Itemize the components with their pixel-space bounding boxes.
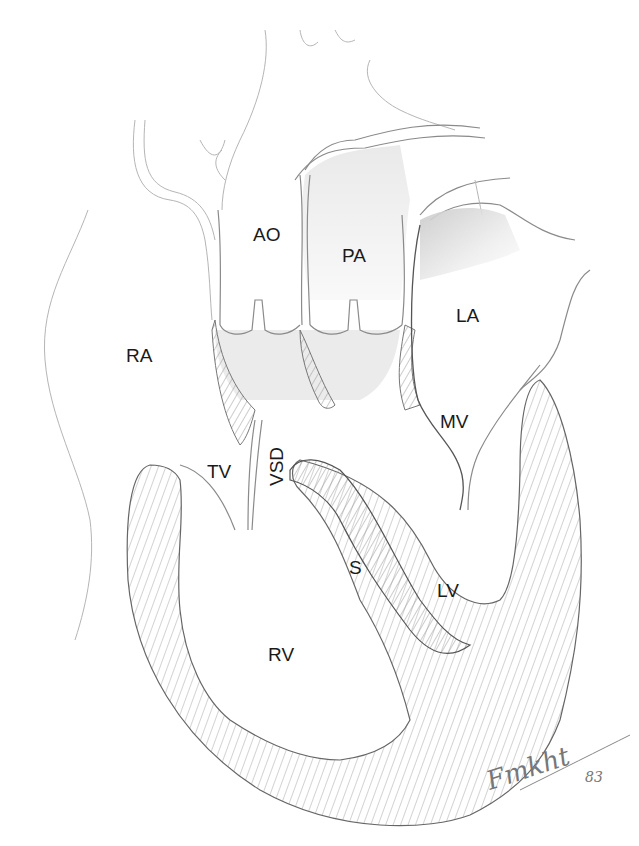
label-tricuspid-valve: TV [207, 461, 232, 482]
signature-year: 83 [585, 769, 603, 785]
label-pulmonary-artery: PA [342, 245, 366, 266]
label-aorta: AO [253, 224, 280, 245]
label-right-atrium: RA [126, 345, 153, 366]
aorta [218, 175, 302, 334]
label-left-ventricle: LV [437, 580, 459, 601]
label-left-atrium: LA [456, 305, 480, 326]
label-septum: S [349, 557, 362, 578]
label-right-ventricle: RV [268, 644, 294, 665]
heart-diagram: AO PA LA RA MV TV VSD S LV RV Fmkht 83 [0, 0, 639, 846]
right-atrium-wall [44, 210, 91, 640]
label-vsd: VSD [266, 447, 287, 486]
label-mitral-valve: MV [440, 411, 469, 432]
